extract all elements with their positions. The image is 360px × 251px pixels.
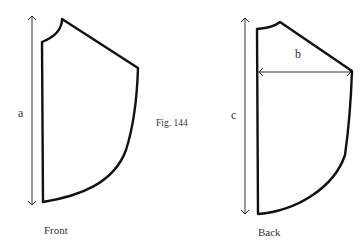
back-label: Back xyxy=(258,226,281,238)
front-label: Front xyxy=(44,224,68,236)
pattern-diagram: a Front Fig. 144 c b Back xyxy=(0,0,360,251)
back-outline xyxy=(257,22,352,214)
figure-caption: Fig. 144 xyxy=(156,118,188,128)
measure-c-label: c xyxy=(231,108,236,122)
front-outline xyxy=(42,19,138,202)
front-piece: a Front xyxy=(18,16,138,236)
measure-b-label: b xyxy=(295,47,301,61)
measure-a-label: a xyxy=(18,106,24,120)
back-piece: c b Back xyxy=(231,18,352,238)
